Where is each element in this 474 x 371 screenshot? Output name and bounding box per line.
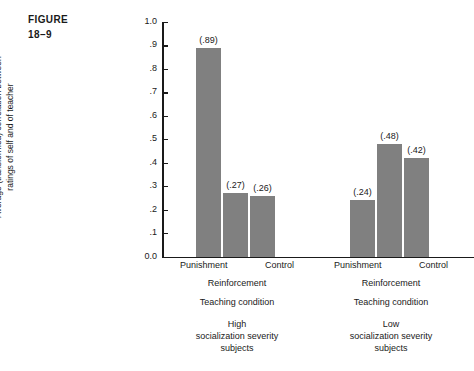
bar-value-label: (.48) xyxy=(380,131,399,141)
bar-value-label: (.26) xyxy=(253,183,272,193)
reinforcement-label: Reinforcement xyxy=(332,278,450,289)
y-tick-mark xyxy=(163,210,168,211)
teaching-condition-label: Teaching condition xyxy=(332,297,450,308)
chart-plot-area: 1.0.9.8.7.6.5.4.3.2.10.0 (.89)(.27)(.26)… xyxy=(162,22,474,258)
bar: (.48) xyxy=(377,144,402,257)
y-tick-label: 1.0 xyxy=(135,16,157,26)
y-tick-mark xyxy=(163,163,168,164)
severity-line3: subjects xyxy=(178,342,296,354)
condition-label-control: Control xyxy=(419,260,448,271)
teaching-condition-label: Teaching condition xyxy=(178,297,296,308)
bar: (.42) xyxy=(404,158,429,256)
bar-value-label: (.24) xyxy=(353,187,372,197)
y-tick-label: .4 xyxy=(135,157,157,167)
severity-line1: Low xyxy=(332,318,450,330)
group-labels-low: Punishment Control Reinforcement Teachin… xyxy=(332,260,450,354)
bar: (.24) xyxy=(350,200,375,256)
y-tick-label: .7 xyxy=(135,86,157,96)
y-tick-mark xyxy=(163,116,168,117)
bar-value-label: (.27) xyxy=(226,180,245,190)
y-tick-label: .1 xyxy=(135,227,157,237)
figure-label-line1: FIGURE xyxy=(28,12,68,27)
severity-label-group: Low socialization severity subjects xyxy=(332,318,450,354)
severity-line1: High xyxy=(178,318,296,330)
y-tick-mark xyxy=(163,45,168,46)
x-axis-line xyxy=(162,257,474,259)
figure-label-line2: 18–9 xyxy=(28,27,68,42)
severity-label-group: High socialization severity subjects xyxy=(178,318,296,354)
bar: (.26) xyxy=(250,196,275,257)
y-tick-mark xyxy=(163,257,168,258)
y-tick-mark xyxy=(163,186,168,187)
figure-label: FIGURE 18–9 xyxy=(28,12,68,42)
y-axis-title-line2: ratings of self and of teacher xyxy=(5,14,17,260)
y-tick-mark xyxy=(163,22,168,23)
group-labels-high: Punishment Control Reinforcement Teachin… xyxy=(178,260,296,354)
y-tick-mark xyxy=(163,139,168,140)
bar: (.89) xyxy=(196,48,221,257)
bar-value-label: (.42) xyxy=(407,145,426,155)
y-tick-label: .2 xyxy=(135,204,157,214)
condition-label-punishment: Punishment xyxy=(334,260,382,271)
bar: (.27) xyxy=(223,193,248,256)
condition-label-control: Control xyxy=(265,260,294,271)
y-axis-title: Average (transformed) correlation betwee… xyxy=(0,14,19,260)
y-tick-label: 0.0 xyxy=(135,251,157,261)
y-tick-mark xyxy=(163,69,168,70)
y-tick-label: .8 xyxy=(135,63,157,73)
y-tick-label: .9 xyxy=(135,39,157,49)
severity-line2: socialization severity xyxy=(178,330,296,342)
y-tick-label: .3 xyxy=(135,180,157,190)
reinforcement-label: Reinforcement xyxy=(178,278,296,289)
y-tick-mark xyxy=(163,233,168,234)
condition-row: Punishment Control xyxy=(178,260,296,274)
y-tick-mark xyxy=(163,92,168,93)
condition-row: Punishment Control xyxy=(332,260,450,274)
y-tick-label: .6 xyxy=(135,110,157,120)
severity-line3: subjects xyxy=(332,342,450,354)
condition-label-punishment: Punishment xyxy=(180,260,228,271)
y-tick-label: .5 xyxy=(135,133,157,143)
severity-line2: socialization severity xyxy=(332,330,450,342)
bar-value-label: (.89) xyxy=(199,35,218,45)
